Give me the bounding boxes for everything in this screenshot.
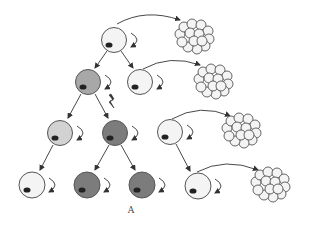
cell-stem-top <box>102 28 127 53</box>
colony-1 <box>175 19 214 54</box>
cell-progeny-white <box>19 172 45 198</box>
colony-4 <box>251 167 290 202</box>
cell-stem-r3 <box>158 120 183 145</box>
cell-progeny-light <box>48 121 73 146</box>
cell-mutant-dark-a <box>74 172 100 198</box>
lineage-arrows <box>40 51 190 171</box>
cell-mutant-dark <box>103 121 128 146</box>
stem-cell-lineage-diagram <box>0 0 309 229</box>
self-renewal-arrows <box>49 33 221 193</box>
cell-progenitor-gray <box>76 70 101 95</box>
cell-stem-r2 <box>128 70 153 95</box>
cell-stem-r4 <box>185 173 211 199</box>
colony-3 <box>222 113 261 148</box>
cell-mutant-dark-b <box>129 172 155 198</box>
figure-caption: A <box>124 205 138 215</box>
cells <box>19 28 211 200</box>
lightning-bolt-icon <box>109 94 114 108</box>
colony-2 <box>194 64 233 99</box>
